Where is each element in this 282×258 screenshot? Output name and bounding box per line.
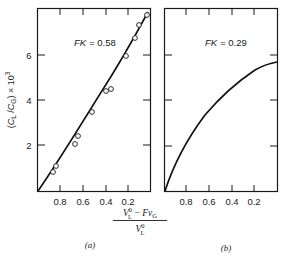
- x-tick-b-0.6: 0.6: [202, 196, 215, 207]
- panel-b-top-ticks: [186, 9, 254, 16]
- x-tick-a-0.6: 0.6: [76, 196, 89, 207]
- panel-b-frame: [165, 9, 278, 192]
- panel-b-bottom-ticks: [186, 185, 254, 192]
- x-axis-label-denominator: V0L: [135, 222, 144, 236]
- y-axis-label: (CL /CG) × 103: [4, 71, 17, 128]
- x-tick-b-0.2: 0.2: [247, 196, 260, 207]
- x-tick-a-0.8: 0.8: [53, 196, 66, 207]
- y-tick-6: 6: [26, 50, 31, 61]
- panel-a-top-ticks: [60, 9, 128, 16]
- y-tick-4: 4: [26, 95, 31, 106]
- y-tick-2: 2: [26, 140, 31, 151]
- panel-a-label: (a): [85, 240, 96, 250]
- panel-a-side-ticks: [38, 55, 151, 145]
- x-tick-b-0.4: 0.4: [225, 196, 238, 207]
- panel-b: 0.8 0.6 0.4 0.2 FK= 0.29 (b): [165, 9, 278, 254]
- x-axis-label-numerator: V0L − FvG: [123, 206, 157, 220]
- panel-b-curve: [165, 62, 277, 191]
- x-axis-label: V0L − FvG V0L: [113, 206, 167, 236]
- x-tick-a-0.4: 0.4: [99, 196, 112, 207]
- figure-canvas: 6 4 2 0.8 0.6 0.4 0.2 FK= 0.58 (a) (CL /…: [0, 0, 282, 258]
- x-tick-b-0.8: 0.8: [179, 196, 192, 207]
- panel-a-bottom-ticks: [60, 185, 128, 192]
- panel-a-annotation: FK= 0.58: [74, 37, 116, 48]
- panel-b-side-ticks: [165, 55, 278, 146]
- panel-b-label: (b): [221, 243, 232, 253]
- panel-b-annotation: FK= 0.29: [205, 37, 247, 48]
